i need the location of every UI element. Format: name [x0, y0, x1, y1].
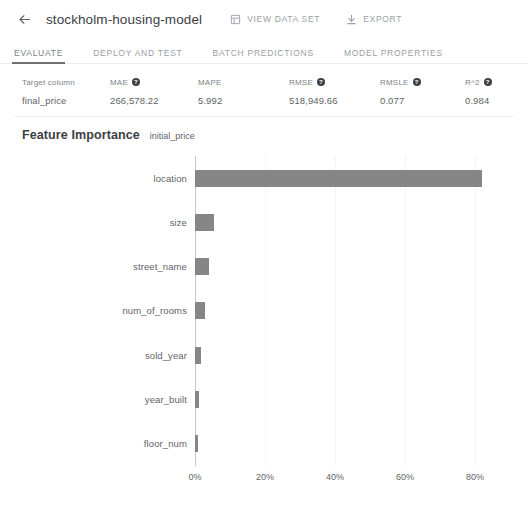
metric-value: 0.984: [465, 95, 525, 106]
tab-model-properties-label: MODEL PROPERTIES: [344, 48, 443, 58]
bar-category-label: sold_year: [145, 350, 187, 361]
bar-category-label: year_built: [145, 394, 187, 405]
metric-rmsle: RMSLE?0.077: [380, 76, 465, 106]
bar-row: street_name: [195, 245, 510, 289]
feature-importance-header: Feature Importance initial_price: [0, 117, 528, 142]
bar-row: size: [195, 200, 510, 244]
chart-plot-area: locationsizestreet_namenum_of_roomssold_…: [195, 156, 510, 466]
metric-label: RMSE?: [289, 76, 380, 88]
bar-year-built: [195, 391, 199, 408]
metric-label: MAE?: [110, 76, 198, 88]
metric-value: 266,578.22: [110, 95, 198, 106]
page-title: stockholm-housing-model: [46, 12, 202, 27]
metric-name: MAE: [110, 78, 128, 87]
bar-category-label: num_of_rooms: [122, 305, 187, 316]
metric-label: MAPE: [198, 76, 289, 88]
x-tick-label: 80%: [466, 472, 484, 482]
feature-importance-title: Feature Importance: [22, 128, 140, 142]
tab-evaluate[interactable]: EVALUATE: [14, 48, 63, 63]
bar-category-label: location: [153, 173, 187, 184]
bar-category-label: street_name: [133, 261, 187, 272]
bar-row: num_of_rooms: [195, 289, 510, 333]
bar-row: sold_year: [195, 333, 510, 377]
x-tick-label: 0%: [188, 472, 201, 482]
table-icon: [230, 14, 241, 25]
metric-name: MAPE: [198, 78, 221, 87]
metric-value: 0.077: [380, 95, 465, 106]
bar-sold-year: [195, 347, 201, 364]
metric-value: final_price: [22, 95, 110, 106]
metric-r-2: R^2?0.984: [465, 76, 525, 106]
export-label: EXPORT: [363, 14, 402, 24]
help-icon[interactable]: ?: [132, 78, 140, 86]
bar-location: [195, 170, 482, 187]
metrics-summary: Target columnfinal_priceMAE?266,578.22MA…: [0, 64, 528, 106]
back-arrow-icon[interactable]: [14, 9, 34, 29]
metric-name: Target column: [22, 78, 75, 87]
x-tick-label: 20%: [256, 472, 274, 482]
x-axis-tick-labels: 0%20%40%60%80%: [195, 472, 510, 486]
x-tick-label: 40%: [326, 472, 344, 482]
x-tick-label: 60%: [396, 472, 414, 482]
bar-row: year_built: [195, 377, 510, 421]
tab-bar: EVALUATE DEPLOY AND TEST BATCH PREDICTIO…: [0, 38, 528, 64]
bar-row: floor_num: [195, 422, 510, 466]
metric-label: RMSLE?: [380, 76, 465, 88]
feature-importance-subtitle: initial_price: [150, 131, 195, 141]
feature-importance-chart: locationsizestreet_namenum_of_roomssold_…: [0, 150, 528, 495]
bar-row: location: [195, 156, 510, 200]
metric-target-column: Target columnfinal_price: [22, 76, 110, 106]
bar-category-label: floor_num: [144, 438, 187, 449]
tab-batch-predictions-label: BATCH PREDICTIONS: [213, 48, 314, 58]
bar-floor-num: [195, 435, 198, 452]
download-icon: [346, 14, 357, 25]
view-data-set-button[interactable]: VIEW DATA SET: [230, 14, 320, 25]
tab-batch-predictions[interactable]: BATCH PREDICTIONS: [213, 48, 314, 63]
metric-label: R^2?: [465, 76, 525, 88]
tab-evaluate-label: EVALUATE: [14, 48, 63, 58]
bar-size: [195, 214, 214, 231]
metric-name: RMSLE: [380, 78, 409, 87]
tab-deploy-and-test-label: DEPLOY AND TEST: [93, 48, 182, 58]
help-icon[interactable]: ?: [413, 78, 421, 86]
metric-value: 5.992: [198, 95, 289, 106]
view-data-set-label: VIEW DATA SET: [247, 14, 320, 24]
export-button[interactable]: EXPORT: [346, 14, 402, 25]
bar-num-of-rooms: [195, 302, 205, 319]
help-icon[interactable]: ?: [484, 78, 492, 86]
metric-name: RMSE: [289, 78, 313, 87]
metric-value: 518,949.66: [289, 95, 380, 106]
header-actions: VIEW DATA SET EXPORT: [230, 14, 402, 25]
tab-deploy-and-test[interactable]: DEPLOY AND TEST: [93, 48, 182, 63]
bar-category-label: size: [170, 217, 187, 228]
metric-rmse: RMSE?518,949.66: [289, 76, 380, 106]
metric-mape: MAPE5.992: [198, 76, 289, 106]
help-icon[interactable]: ?: [317, 78, 325, 86]
metric-label: Target column: [22, 76, 110, 88]
app-header: stockholm-housing-model VIEW DATA SET: [0, 0, 528, 38]
metric-mae: MAE?266,578.22: [110, 76, 198, 106]
tab-model-properties[interactable]: MODEL PROPERTIES: [344, 48, 443, 63]
bar-street-name: [195, 258, 209, 275]
metric-name: R^2: [465, 78, 480, 87]
